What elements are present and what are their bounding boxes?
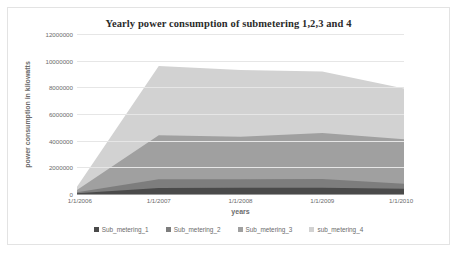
x-tick-label: 1/1/2009 (310, 197, 334, 204)
plot-inner (77, 34, 404, 194)
legend-swatch-icon (94, 227, 99, 232)
plot-area (77, 34, 404, 194)
legend-item[interactable]: Sub_metering_2 (166, 226, 221, 233)
y-axis-ticks: 0200000040000006000000800000010000000120… (8, 34, 73, 194)
legend-label: Sub_metering_1 (102, 226, 149, 233)
y-tick-label: 2000000 (49, 164, 73, 171)
x-tick-label: 1/1/2008 (228, 197, 252, 204)
gridline (77, 87, 404, 88)
x-axis-title: years (77, 208, 404, 215)
legend-item[interactable]: sub_metering_4 (309, 226, 363, 233)
y-tick-label: 12000000 (45, 31, 73, 38)
x-tick-label: 1/1/2006 (68, 197, 92, 204)
legend-swatch-icon (166, 227, 171, 232)
gridline (77, 114, 404, 115)
gridline (77, 167, 404, 168)
x-tick-label: 1/1/2007 (147, 197, 171, 204)
y-tick-label: 4000000 (49, 137, 73, 144)
chart-legend: Sub_metering_1Sub_metering_2Sub_metering… (8, 226, 449, 233)
legend-item[interactable]: Sub_metering_3 (238, 226, 293, 233)
chart-title: Yearly power consumption of submetering … (8, 18, 449, 29)
gridline (77, 61, 404, 62)
chart-frame: Yearly power consumption of submetering … (7, 7, 450, 245)
legend-label: Sub_metering_2 (174, 226, 221, 233)
legend-label: Sub_metering_3 (246, 226, 293, 233)
x-tick-label: 1/1/2010 (389, 197, 413, 204)
x-axis-line (77, 194, 404, 195)
gridline (77, 141, 404, 142)
legend-swatch-icon (309, 227, 314, 232)
y-tick-label: 6000000 (49, 111, 73, 118)
legend-item[interactable]: Sub_metering_1 (94, 226, 149, 233)
legend-swatch-icon (238, 227, 243, 232)
y-tick-label: 8000000 (49, 84, 73, 91)
legend-label: sub_metering_4 (317, 226, 363, 233)
y-tick-label: 10000000 (45, 57, 73, 64)
gridline (77, 34, 404, 35)
